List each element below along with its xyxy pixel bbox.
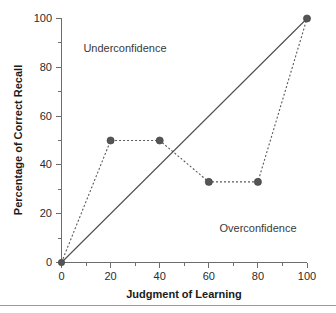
y-tick-label-80: 80: [40, 61, 52, 73]
x-axis-minor-ticks: [86, 263, 282, 267]
annotation-underconfidence: Underconfidence: [83, 42, 166, 54]
data-point-20-50: [107, 137, 114, 144]
x-tick-label-0: 0: [58, 270, 64, 282]
annotation-overconfidence: Overconfidence: [219, 222, 296, 234]
y-tick-label-100: 100: [34, 12, 52, 24]
y-axis-tick-labels: 100 80 60 40 20 0: [34, 12, 52, 268]
x-tick-label-40: 40: [154, 270, 166, 282]
data-point-60-33: [205, 178, 212, 185]
y-tick-label-40: 40: [40, 158, 52, 170]
chart-figure: 100 80 60 40 20 0 0 20 40: [0, 0, 336, 313]
data-point-40-50: [156, 137, 163, 144]
x-axis-tick-labels: 0 20 40 60 80 100: [58, 270, 316, 282]
y-tick-label-20: 20: [40, 207, 52, 219]
y-tick-label-0: 0: [46, 256, 52, 268]
x-tick-label-80: 80: [252, 270, 264, 282]
x-tick-label-20: 20: [104, 270, 116, 282]
data-point-100-100: [303, 15, 310, 22]
data-point-0-0: [58, 259, 64, 265]
y-axis-minor-ticks: [58, 43, 62, 238]
y-axis-title: Percentage of Correct Recall: [12, 65, 24, 215]
calibration-chart: 100 80 60 40 20 0 0 20 40: [0, 0, 336, 313]
x-axis-title: Judgment of Learning: [126, 288, 242, 300]
y-tick-label-60: 60: [40, 110, 52, 122]
data-point-80-33: [254, 178, 261, 185]
x-tick-label-100: 100: [298, 270, 316, 282]
x-tick-label-60: 60: [203, 270, 215, 282]
